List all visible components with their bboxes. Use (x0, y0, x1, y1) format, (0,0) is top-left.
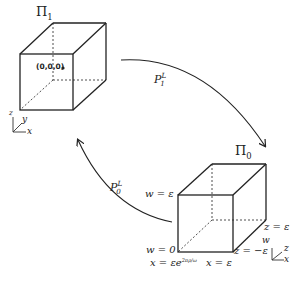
top-cube-label-sub: 1 (47, 12, 52, 22)
bottom-axis-w: w (262, 236, 270, 245)
bottom-cube-label-main: Π (235, 143, 246, 158)
top-axis-y: y (22, 115, 27, 124)
bottom-axis-z: z (284, 244, 289, 253)
arrow-p1-icon (121, 60, 265, 146)
top-axis-z: z (9, 110, 13, 117)
origin-label: (0,0,0) (36, 63, 64, 71)
label-z-neg-eps: z = −ε (234, 246, 268, 256)
top-cube-label-main: Π (36, 4, 47, 19)
arrow-p1-label: PL1 (154, 72, 165, 87)
top-axis-x: x (27, 127, 32, 136)
bottom-axis-x: x (284, 255, 289, 264)
bottom-cube-label: Π0 (235, 144, 252, 160)
diagram-canvas (0, 0, 298, 282)
bottom-axes-icon (272, 248, 284, 260)
arrow-p1-sub: 1 (160, 79, 165, 88)
label-w-zero: w = 0 (146, 245, 176, 255)
arrow-p0-icon (78, 140, 172, 222)
top-cube-label: Π1 (36, 5, 53, 21)
label-x-eps-exp-base: x = εe (150, 257, 182, 268)
arrow-p0-sub: 0 (116, 187, 121, 196)
label-x-eps-exp: x = εe2πρ/ω (150, 258, 197, 268)
label-x-eps: x = ε (206, 258, 232, 268)
label-z-eps: z = ε (264, 222, 289, 232)
bottom-cube (178, 164, 266, 252)
label-w-eps: w = ε (145, 189, 174, 199)
arrow-p0-label: PL0 (110, 180, 121, 195)
bottom-cube-label-sub: 0 (246, 151, 251, 161)
label-x-eps-exp-sup: 2πρ/ω (182, 257, 197, 263)
